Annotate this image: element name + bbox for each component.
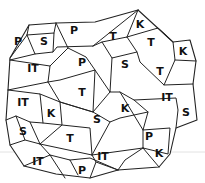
- region-label: T: [109, 30, 117, 43]
- region-label: K: [47, 107, 56, 120]
- region-label: S: [93, 113, 101, 126]
- region-label: S: [40, 35, 48, 48]
- region-label: K: [179, 45, 188, 58]
- region-map-diagram: P S P T K IT P S T K T T IT K S K IT S S…: [0, 0, 205, 183]
- region-label: S: [182, 106, 190, 119]
- region-label: S: [19, 125, 27, 138]
- region-label: K: [136, 18, 145, 31]
- region-map-svg: P S P T K IT P S T K T T IT K S K IT S S…: [0, 0, 205, 183]
- region-label: IT: [161, 91, 173, 104]
- region-label: IT: [32, 155, 44, 168]
- region-label: P: [14, 35, 22, 48]
- region-label: IT: [27, 62, 39, 75]
- region-label: T: [66, 132, 74, 145]
- region-label: P: [70, 24, 78, 37]
- region-label: T: [78, 86, 86, 99]
- region-label: IT: [17, 96, 29, 109]
- region-label: K: [121, 102, 130, 115]
- region-label: T: [147, 36, 155, 49]
- region-label: K: [155, 147, 164, 160]
- region-label: T: [156, 65, 164, 78]
- region-label: P: [78, 164, 86, 177]
- region-label: P: [145, 130, 153, 143]
- region-label: S: [121, 58, 129, 71]
- region-label: IT: [97, 150, 109, 163]
- region-label: P: [78, 56, 86, 69]
